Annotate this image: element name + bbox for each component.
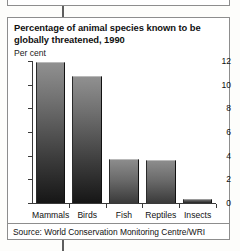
y-axis-tick [28, 179, 32, 180]
y-axis-tick-label: 2 [213, 175, 231, 184]
y-axis-tick-label: 4 [213, 152, 231, 161]
connector-box-above [7, 0, 230, 6]
y-axis-tick [28, 156, 32, 157]
y-axis-tick-label: 10 [213, 81, 231, 90]
y-axis-line [32, 61, 33, 204]
x-axis-category-label: Mammals [32, 210, 69, 220]
plot-area: 024681012MammalsBirdsFishReptilesInsects [8, 18, 231, 241]
x-axis-tick [69, 204, 70, 208]
x-axis-tick [106, 204, 107, 208]
x-axis-tick [142, 204, 143, 208]
bar-insects [183, 199, 212, 203]
x-axis-line [32, 203, 216, 204]
y-axis-tick [28, 85, 32, 86]
bar-mammals [36, 62, 65, 203]
x-axis-tick [216, 204, 217, 208]
bar-reptiles [146, 160, 175, 203]
x-axis-category-label: Reptiles [142, 210, 179, 220]
y-axis-tick-label: 8 [213, 104, 231, 113]
chart-panel: Percentage of animal species known to be… [7, 17, 230, 240]
x-axis-category-label: Fish [106, 210, 143, 220]
chart-figure: Percentage of animal species known to be… [0, 0, 240, 251]
y-axis-tick [28, 203, 32, 204]
y-axis-tick-label: 12 [213, 57, 231, 66]
x-axis-category-label: Birds [69, 210, 106, 220]
connector-stem-bottom [62, 240, 64, 251]
source-note: Source: World Conservation Monitoring Ce… [13, 227, 205, 237]
y-axis-tick [28, 61, 32, 62]
y-axis-tick [28, 132, 32, 133]
x-axis-tick [179, 204, 180, 208]
y-axis-tick-label: 6 [213, 128, 231, 137]
connector-stem-top [62, 6, 64, 17]
bar-birds [72, 76, 101, 203]
source-divider [8, 223, 229, 224]
y-axis-tick [28, 108, 32, 109]
bar-fish [109, 159, 138, 203]
x-axis-category-label: Insects [179, 210, 216, 220]
